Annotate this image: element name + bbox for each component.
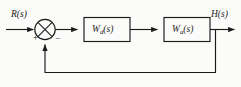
block-label-wa: Wa(s) — [172, 25, 193, 36]
diagram-canvas — [0, 0, 241, 87]
output-signal-label: H(s) — [211, 10, 228, 20]
block-wa-argument: (s) — [183, 24, 193, 34]
block-wd-argument: (s) — [103, 24, 113, 34]
input-signal-label: R(s) — [11, 10, 27, 20]
summing-junction-plus-sign: + — [33, 33, 38, 42]
summing-junction-minus-sign: − — [55, 34, 60, 43]
block-diagram-figure: R(s) H(s) + − Wd(s) Wa(s) — [0, 0, 241, 87]
block-label-wd: Wd(s) — [92, 25, 113, 36]
